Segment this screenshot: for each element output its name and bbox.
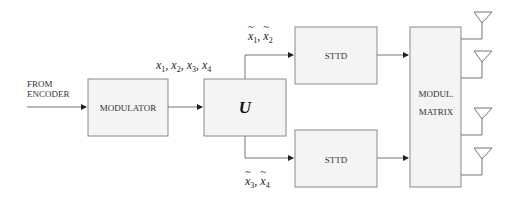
- top-branch-label: x1, x2: [248, 29, 273, 45]
- antenna-3: [461, 108, 492, 135]
- input-label-line2: ENCODER: [27, 89, 70, 99]
- sttd-top-label: STTD: [325, 51, 348, 61]
- u-to-sttd-top-arrow: [245, 55, 293, 79]
- antenna-1: [461, 12, 492, 39]
- antenna-4: [461, 148, 492, 175]
- input-label: FROM ENCODER: [27, 79, 70, 99]
- modulator-output-label: x1, x2, x3, x4: [156, 58, 211, 74]
- unitary-label: U: [239, 98, 251, 118]
- antenna-2: [461, 51, 492, 78]
- u-to-sttd-bottom-arrow: [245, 136, 293, 158]
- modulator-label: MODULATOR: [100, 103, 156, 113]
- bottom-branch-label: x3, x4: [245, 174, 270, 190]
- input-label-line1: FROM: [27, 79, 70, 89]
- matrix-label-line1: MODUL.: [418, 89, 453, 99]
- sttd-bottom-label: STTD: [325, 155, 348, 165]
- matrix-label-line2: MATRIX: [419, 107, 454, 117]
